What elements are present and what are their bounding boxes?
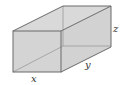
label-z: z (112, 23, 119, 34)
rectangular-box-diagram: x y z (0, 0, 123, 85)
label-y: y (84, 59, 91, 70)
front-face (13, 31, 61, 72)
label-x: x (31, 73, 37, 84)
